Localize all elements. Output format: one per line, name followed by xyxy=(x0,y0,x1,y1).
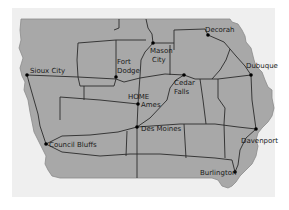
label-council-bluffs: Council Bluffs xyxy=(49,141,97,149)
city-dot-ames[interactable] xyxy=(136,102,140,106)
label-davenport: Davenport xyxy=(241,137,278,145)
label-sioux-city: Sioux City xyxy=(30,67,65,75)
city-dot-council-bluffs[interactable] xyxy=(44,142,48,146)
label-burlington: Burlington xyxy=(200,169,236,177)
label-decorah: Decorah xyxy=(205,26,234,34)
label-dubuque: Dubuque xyxy=(246,62,278,70)
label-fort: Fort xyxy=(117,58,131,66)
city-dot-davenport[interactable] xyxy=(254,127,258,131)
iowa-map: Sioux City Fort Dodge Mason City Decorah… xyxy=(0,0,289,210)
city-dot-des-moines[interactable] xyxy=(135,125,139,129)
label-mason: Mason xyxy=(150,47,173,55)
label-dodge: Dodge xyxy=(117,67,140,75)
city-dot-cedar-falls[interactable] xyxy=(182,73,186,77)
city-dot-fort-dodge[interactable] xyxy=(114,75,118,79)
label-cedar: Cedar xyxy=(174,79,195,87)
city-dot-sioux-city[interactable] xyxy=(25,73,29,77)
label-city: City xyxy=(152,56,166,64)
city-dot-mason-city[interactable] xyxy=(151,41,155,45)
label-ames: Ames xyxy=(141,101,161,109)
label-home: HOME xyxy=(128,93,149,101)
label-des-moines: Des Moines xyxy=(141,125,182,133)
city-dot-dubuque[interactable] xyxy=(249,73,253,77)
label-falls: Falls xyxy=(174,88,190,96)
